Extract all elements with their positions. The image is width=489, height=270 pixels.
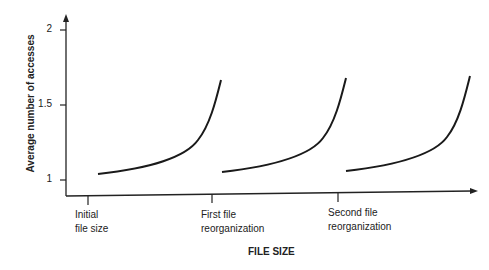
x-tick-label-second-line1: Second file — [328, 206, 391, 220]
x-axis — [66, 191, 472, 196]
curve-period-2 — [222, 78, 346, 172]
x-tick-label-second-line2: reorganization — [328, 220, 391, 234]
curve-period-3 — [346, 76, 470, 171]
x-axis-title: FILE SIZE — [248, 246, 295, 257]
y-axis-arrow-icon — [63, 14, 69, 22]
x-tick-label-first-line2: reorganization — [201, 222, 264, 236]
x-axis-arrow-icon — [470, 188, 478, 194]
y-axis-title: Average number of accesses — [25, 34, 36, 174]
x-tick-label-initial-line2: file size — [75, 222, 108, 236]
x-tick-label-first-line1: First file — [201, 208, 264, 222]
y-tick-label-2: 2 — [28, 23, 52, 34]
x-tick-label-first: First file reorganization — [201, 208, 264, 236]
x-tick-label-initial: Initial file size — [75, 208, 108, 236]
x-tick-label-second: Second file reorganization — [328, 206, 391, 234]
y-tick-label-1: 1 — [28, 173, 52, 184]
x-tick-label-initial-line1: Initial — [75, 208, 108, 222]
curve-period-1 — [98, 80, 221, 174]
